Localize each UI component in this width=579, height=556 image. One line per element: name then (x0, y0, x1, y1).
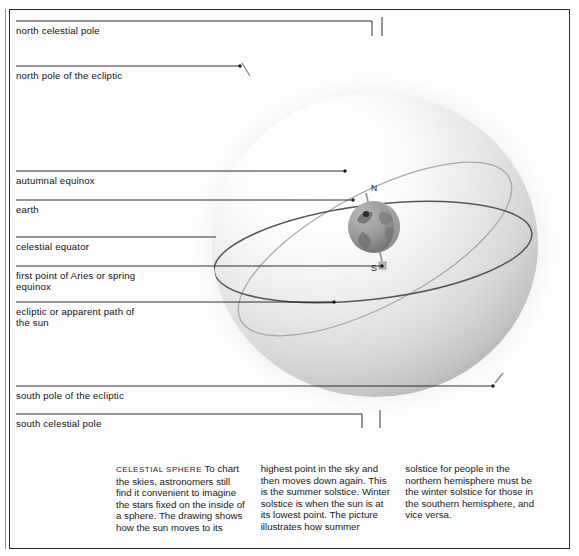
label-south-pole-of-the-ecliptic: south pole of the ecliptic (16, 390, 124, 401)
figure-caption: CELESTIAL SPHERE To chart the skies, ast… (116, 463, 536, 548)
label-first-point-of-aries: first point of Aries or spring equinox (16, 270, 135, 293)
label-north-celestial-pole: north celestial pole (16, 25, 100, 36)
caption-column-1: CELESTIAL SPHERE To chart the skies, ast… (116, 463, 247, 548)
label-south-celestial-pole: south celestial pole (16, 418, 101, 429)
label-ecliptic-apparent-path: ecliptic or apparent path of the sun (16, 306, 134, 329)
label-north-pole-of-the-ecliptic: north pole of the ecliptic (16, 70, 122, 81)
caption-column-3: solstice for people in the northern hemi… (405, 463, 536, 548)
label-celestial-equator: celestial equator (16, 241, 89, 252)
figure-page: N S (0, 0, 579, 556)
label-column: north celestial pole north pole of the e… (0, 0, 579, 450)
caption-lead-in: CELESTIAL SPHERE (116, 465, 202, 474)
caption-column-2: highest point in the sky and then moves … (261, 463, 392, 548)
label-earth: earth (16, 204, 39, 215)
label-autumnal-equinox: autumnal equinox (16, 175, 95, 186)
